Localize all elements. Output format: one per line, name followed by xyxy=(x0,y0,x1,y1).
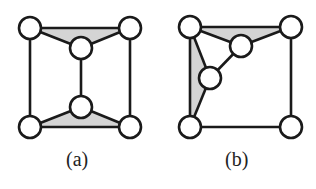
figure-a xyxy=(19,17,141,138)
node xyxy=(70,37,92,59)
node xyxy=(280,116,302,138)
node xyxy=(179,116,201,138)
node xyxy=(280,16,302,38)
node xyxy=(179,16,201,38)
caption-b: (b) xyxy=(225,148,248,171)
node xyxy=(119,116,141,138)
node xyxy=(119,17,141,39)
graph-diagrams xyxy=(0,0,316,189)
node xyxy=(230,35,252,57)
node xyxy=(19,116,41,138)
node xyxy=(199,67,221,89)
node xyxy=(19,17,41,39)
node xyxy=(70,96,92,118)
caption-a: (a) xyxy=(66,148,88,171)
figure-b xyxy=(179,16,302,138)
